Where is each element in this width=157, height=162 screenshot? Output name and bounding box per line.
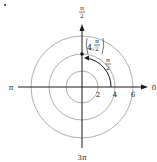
arc-arrowhead-icon [84, 56, 89, 61]
radius-label-6: 6 [131, 91, 136, 99]
polar-diagram: 4, π 2 π 2 π 2 π 0 3π 2 4 6 [0, 0, 157, 162]
axis-label-bottom: 3π [77, 154, 86, 162]
radius-label-4: 4 [113, 91, 118, 99]
point-4-pi-over-2 [80, 52, 84, 56]
arrow-up-icon [80, 24, 85, 31]
arc-label-den: 2 [106, 64, 110, 71]
axis-label-top-num: π [80, 4, 84, 11]
arrow-right-icon [141, 85, 148, 90]
radius-label-2: 2 [96, 91, 100, 99]
point-label-theta-den: 2 [95, 45, 99, 52]
arc-label-num: π [106, 56, 110, 63]
axis-label-left: π [9, 84, 14, 92]
axis-label-right: 0 [152, 84, 156, 92]
axis-label-top-den: 2 [80, 12, 84, 19]
point-label-theta-num: π [95, 37, 99, 44]
point-label-r: 4, [87, 43, 95, 52]
corner-mark [4, 4, 6, 6]
